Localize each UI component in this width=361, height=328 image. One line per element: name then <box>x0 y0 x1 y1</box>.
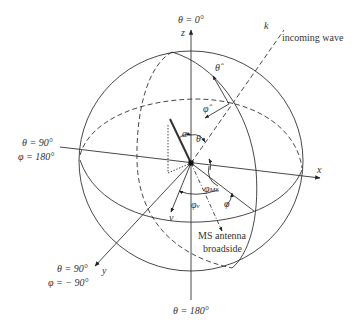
ms-broadside-line <box>191 163 222 231</box>
antenna-element <box>170 119 191 163</box>
y-phi-label: φ = − 90° <box>48 277 89 288</box>
y-axis <box>95 163 191 266</box>
k-vector <box>191 30 284 163</box>
bottom-pole-label: θ = 180° <box>173 305 209 316</box>
v-label: v <box>169 212 173 223</box>
phi-v-label: φv <box>191 199 200 212</box>
ms-antenna-label-line1: MS antenna <box>198 230 246 241</box>
y-theta-label: θ = 90° <box>57 263 88 274</box>
theta-label: θ <box>196 133 201 144</box>
y-axis-label: y <box>102 265 106 276</box>
projection-lines <box>168 125 191 173</box>
ms-antenna-label-line2: broadside <box>203 243 242 254</box>
phi-line <box>191 163 254 211</box>
incoming-wave-label: incoming wave <box>282 32 343 43</box>
phi-hat-label: φ̂ <box>203 103 209 114</box>
phi-ms-label: φMS <box>204 183 219 196</box>
x-axis-label: x <box>317 164 321 175</box>
top-pole-label: θ = 0° <box>178 14 204 25</box>
alpha-label: α <box>182 128 187 139</box>
origin-point <box>189 161 194 166</box>
left-phi-label: φ = 180° <box>18 151 54 162</box>
theta-hat-label: θ̂ <box>215 62 220 73</box>
phi-label: φ <box>224 198 230 209</box>
z-axis-label: z <box>181 27 185 38</box>
k-label: k <box>264 20 268 31</box>
left-theta-label: θ = 90° <box>22 137 53 148</box>
